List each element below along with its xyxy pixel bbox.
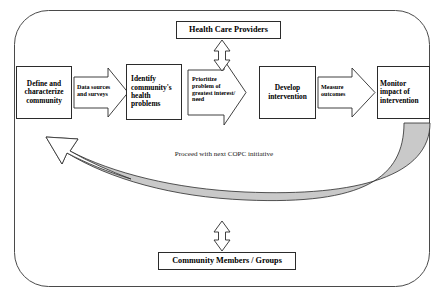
node-develop-intervention[interactable]: Develop intervention (259, 66, 316, 119)
arrow-label-measure-outcomes: Measure outcomes (321, 84, 359, 98)
node-identify-community-health-problems[interactable]: Identify community's health problems (126, 64, 182, 120)
bidirectional-arrow-community (214, 221, 230, 251)
node-community-members-groups[interactable]: Community Members / Groups (158, 252, 296, 270)
arrow-label-prioritize: Prioritize problem of greatest interest/… (192, 76, 238, 103)
copc-cycle-diagram: Health Care Providers Community Members … (0, 0, 447, 296)
node-health-care-providers[interactable]: Health Care Providers (176, 21, 281, 39)
node-define-characterize-community[interactable]: Define and characterize community (16, 66, 72, 119)
node-monitor-impact-of-intervention[interactable]: Monitor impact of intervention (377, 66, 430, 119)
feedback-loop-label: Proceed with next COPC initiative (124, 150, 324, 158)
feedback-curved-arrow (46, 123, 430, 201)
arrow-label-data-sources: Data sources and surveys (77, 84, 121, 98)
